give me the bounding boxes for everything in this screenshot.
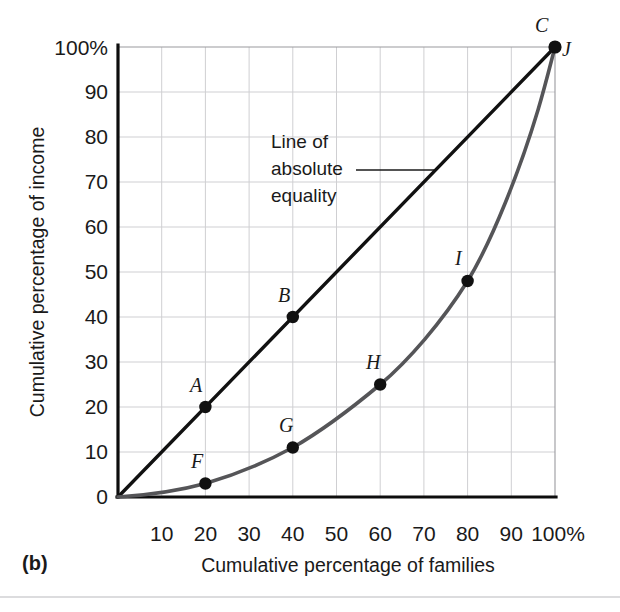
x-tick-80: 80 — [456, 522, 479, 545]
annotation-line-3: equality — [271, 185, 337, 206]
y-tick-20: 20 — [85, 395, 108, 418]
x-tick-90: 90 — [500, 522, 523, 545]
y-tick-10: 10 — [85, 440, 108, 463]
y-tick-50: 50 — [85, 260, 108, 283]
x-tick-30: 30 — [237, 522, 260, 545]
point-marker-H — [374, 378, 386, 390]
x-tick-40: 40 — [281, 522, 304, 545]
y-tick-0: 0 — [96, 485, 108, 508]
point-label-C: C — [535, 14, 549, 36]
y-tick-30: 30 — [85, 350, 108, 373]
point-label-F: F — [190, 450, 204, 472]
lorenz-curve-figure: Line of absolute equality A B C F G H I … — [0, 0, 620, 612]
point-marker-C — [548, 40, 561, 53]
annotation-line-1: Line of — [271, 131, 329, 152]
point-label-I: I — [454, 247, 463, 269]
y-tick-40: 40 — [85, 305, 108, 328]
annotation-line-2: absolute — [271, 158, 343, 179]
y-tick-60: 60 — [85, 215, 108, 238]
point-label-G: G — [279, 414, 294, 436]
point-label-H: H — [365, 351, 382, 373]
x-axis-title: Cumulative percentage of families — [201, 554, 495, 576]
y-tick-90: 90 — [85, 80, 108, 103]
point-marker-B — [287, 311, 299, 323]
point-label-J: J — [562, 38, 572, 60]
x-tick-100: 100% — [531, 522, 585, 545]
y-axis-title: Cumulative percentage of income — [26, 127, 48, 418]
y-tick-100: 100% — [54, 36, 108, 59]
point-marker-I — [461, 275, 473, 287]
point-label-A: A — [188, 374, 203, 396]
point-marker-A — [199, 401, 211, 413]
x-tick-10: 10 — [150, 522, 173, 545]
point-label-B: B — [278, 284, 290, 306]
point-marker-F — [199, 477, 211, 489]
x-tick-60: 60 — [369, 522, 392, 545]
y-tick-80: 80 — [85, 125, 108, 148]
x-tick-20: 20 — [194, 522, 217, 545]
y-tick-70: 70 — [85, 170, 108, 193]
x-tick-50: 50 — [325, 522, 348, 545]
panel-label: (b) — [22, 552, 48, 574]
point-marker-G — [287, 441, 299, 453]
x-tick-70: 70 — [412, 522, 435, 545]
